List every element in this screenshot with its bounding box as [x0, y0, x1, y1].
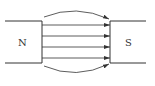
magnetic-field-diagram: N S [0, 0, 155, 86]
south-pole-label: S [125, 37, 132, 48]
north-pole-label: N [18, 37, 27, 48]
field-lines [42, 11, 110, 73]
